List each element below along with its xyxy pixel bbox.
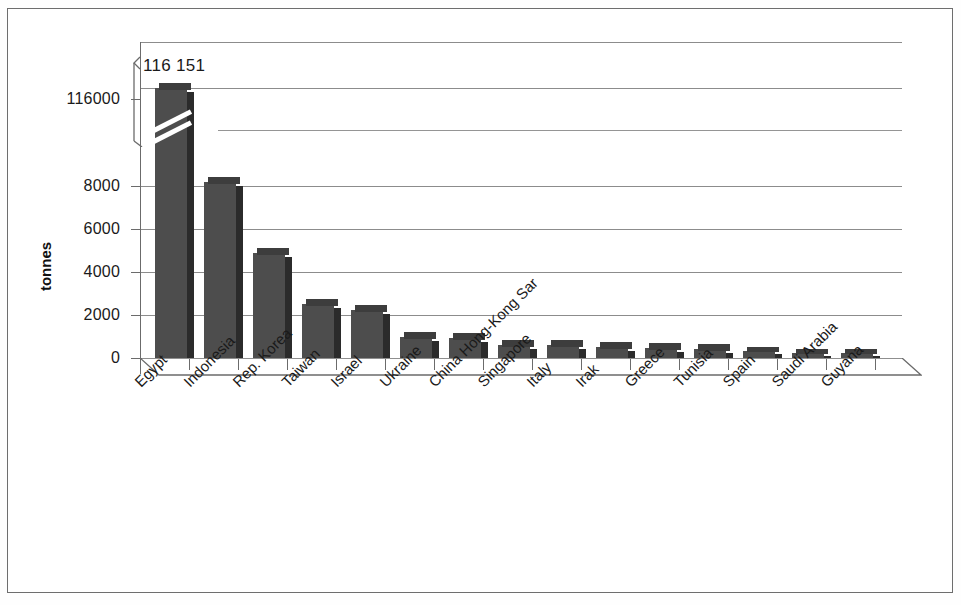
x-tick-15: [875, 359, 876, 370]
gridline-top: [140, 42, 902, 43]
bar-side: [432, 341, 439, 358]
chart-plot-area: 116000 8000 6000 4000 2000 0 tonnes 116 …: [0, 0, 961, 605]
y-tick-4000: [131, 272, 140, 273]
bar-side: [824, 356, 831, 358]
bar-face: [351, 310, 383, 358]
axis-break-slash: [150, 126, 198, 152]
y-tick-label-4000: 4000: [20, 263, 120, 281]
bar-top: [355, 305, 387, 312]
bar-side: [628, 351, 635, 358]
bar-top: [404, 332, 436, 339]
gridline-116000: [140, 88, 902, 89]
bar-side: [677, 352, 684, 358]
bar-indonesia[interactable]: [204, 182, 236, 358]
bar-side: [579, 349, 586, 358]
bar-side: [726, 353, 733, 358]
y-tick-label-6000: 6000: [20, 220, 120, 238]
y-tick-8000: [131, 186, 140, 187]
bar-italy[interactable]: [547, 345, 579, 358]
data-label-egypt: 116 151: [143, 56, 205, 76]
y-axis-title: tonnes: [37, 232, 54, 302]
chart-screenshot: 116000 8000 6000 4000 2000 0 tonnes 116 …: [0, 0, 961, 605]
bar-top: [208, 177, 240, 184]
bar-side: [530, 349, 537, 358]
gridline-6000: [140, 229, 902, 230]
bar-top: [747, 347, 779, 352]
bar-israel[interactable]: [351, 310, 383, 358]
bar-irak[interactable]: [596, 347, 628, 358]
y-tick-6000: [131, 229, 140, 230]
bar-top: [159, 83, 191, 90]
bar-top: [257, 248, 289, 255]
bar-top: [306, 299, 338, 306]
y-tick-0: [131, 358, 140, 359]
bar-side: [775, 354, 782, 358]
bar-top: [600, 342, 632, 349]
bar-side: [236, 186, 243, 358]
bar-side: [873, 356, 880, 358]
bar-side: [334, 308, 341, 358]
y-tick-label-2000: 2000: [20, 306, 120, 324]
y-tick-label-116000: 116000: [20, 90, 120, 108]
y-tick-116000: [131, 99, 140, 100]
y-tick-label-0: 0: [20, 349, 120, 367]
gridline-8000: [140, 186, 902, 187]
bar-top: [551, 340, 583, 347]
y-tick-2000: [131, 315, 140, 316]
bar-face: [204, 182, 236, 358]
gridline-break-gap: [218, 130, 902, 131]
y-tick-label-8000: 8000: [20, 177, 120, 195]
bar-side: [383, 314, 390, 358]
